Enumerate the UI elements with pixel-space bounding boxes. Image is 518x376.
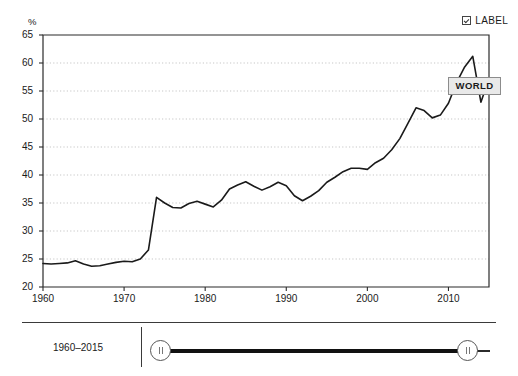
line-chart bbox=[0, 0, 518, 312]
range-end-handle[interactable] bbox=[457, 340, 478, 361]
y-axis-unit-label: % bbox=[28, 16, 36, 27]
x-tick-label: 2000 bbox=[347, 293, 387, 304]
panel-divider-top bbox=[22, 322, 496, 323]
x-tick-label: 1970 bbox=[104, 293, 144, 304]
chart-region: % 20253035404550556065 19601970198019902… bbox=[0, 0, 518, 312]
y-tick-label: 45 bbox=[11, 141, 33, 152]
x-tick-label: 1960 bbox=[23, 293, 63, 304]
y-tick-label: 30 bbox=[11, 225, 33, 236]
y-tick-label: 65 bbox=[11, 29, 33, 40]
y-tick-label: 35 bbox=[11, 197, 33, 208]
y-tick-label: 50 bbox=[11, 113, 33, 124]
panel-divider-vertical bbox=[141, 327, 142, 367]
label-toggle-text: LABEL bbox=[475, 15, 508, 26]
range-track-selected[interactable] bbox=[160, 349, 468, 353]
x-tick-label: 1990 bbox=[266, 293, 306, 304]
plot-frame bbox=[43, 35, 489, 287]
x-tick-label: 1980 bbox=[185, 293, 225, 304]
y-tick-label: 60 bbox=[11, 57, 33, 68]
chart-app: % 20253035404550556065 19601970198019902… bbox=[0, 0, 518, 376]
y-tick-label: 20 bbox=[11, 281, 33, 292]
y-tick-label: 25 bbox=[11, 253, 33, 264]
range-slider-panel: 1960–2015 bbox=[0, 312, 518, 376]
range-caption: 1960–2015 bbox=[24, 342, 132, 353]
series-annotation-world[interactable]: WORLD bbox=[448, 77, 502, 95]
label-toggle-checkbox[interactable]: LABEL bbox=[462, 15, 508, 26]
range-start-handle[interactable] bbox=[150, 340, 171, 361]
checkbox-checked-icon[interactable] bbox=[462, 16, 471, 25]
gridlines bbox=[43, 63, 489, 259]
y-tick-label: 55 bbox=[11, 85, 33, 96]
x-tick-label: 2010 bbox=[428, 293, 468, 304]
series-line-world bbox=[43, 56, 489, 266]
y-tick-label: 40 bbox=[11, 169, 33, 180]
range-slider-track[interactable] bbox=[150, 340, 495, 362]
